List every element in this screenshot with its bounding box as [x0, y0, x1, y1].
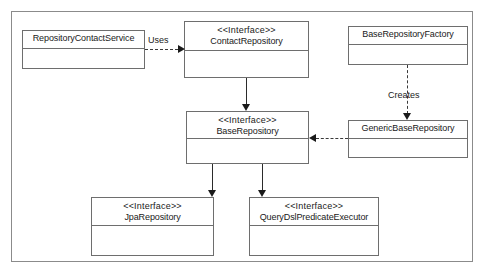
contact-extends-base-edge-arrowhead — [242, 104, 250, 111]
uses-edge-line — [145, 49, 178, 50]
class-header-contact-repository: <<Interface>> ContactRepository — [185, 22, 308, 51]
class-body-contact-repository — [185, 51, 308, 78]
class-stereotype-jpa-repository: <<Interface>> — [92, 201, 213, 212]
class-box-generic-base-repository[interactable]: GenericBaseRepository — [348, 120, 468, 158]
class-header-base-repository-factory: BaseRepositoryFactory — [349, 27, 467, 45]
class-box-base-repository[interactable]: <<Interface>> BaseRepository — [186, 111, 309, 164]
uses-edge-label: Uses — [148, 35, 169, 46]
class-body-jpa-repository — [92, 226, 213, 256]
realizes-edge-line — [316, 138, 348, 139]
uses-edge-arrowhead — [178, 45, 185, 53]
class-header-jpa-repository: <<Interface>> JpaRepository — [92, 198, 213, 226]
class-box-querydsl-predicate-executor[interactable]: <<Interface>> QueryDslPredicateExecutor — [249, 197, 379, 256]
contact-extends-base-edge-line — [246, 78, 247, 105]
realizes-edge-arrowhead — [309, 134, 316, 142]
uml-class-diagram-canvas: RepositoryContactService <<Interface>> C… — [0, 0, 487, 277]
class-header-repository-contact-service: RepositoryContactService — [23, 31, 144, 49]
class-box-base-repository-factory[interactable]: BaseRepositoryFactory — [348, 26, 468, 65]
class-name-generic-base-repository: GenericBaseRepository — [349, 123, 467, 134]
creates-edge-label: Creates — [388, 90, 420, 101]
class-name-jpa-repository: JpaRepository — [92, 212, 213, 223]
class-header-base-repository: <<Interface>> BaseRepository — [187, 112, 308, 139]
base-extends-jpa-edge-line — [212, 164, 213, 191]
class-name-repository-contact-service: RepositoryContactService — [23, 33, 144, 44]
class-stereotype-querydsl-predicate-executor: <<Interface>> — [250, 201, 378, 212]
class-stereotype-base-repository: <<Interface>> — [187, 115, 308, 126]
class-body-base-repository-factory — [349, 45, 467, 65]
class-stereotype-contact-repository: <<Interface>> — [185, 25, 308, 36]
class-header-generic-base-repository: GenericBaseRepository — [349, 121, 467, 139]
class-body-querydsl-predicate-executor — [250, 226, 378, 256]
creates-edge-arrowhead — [403, 113, 411, 120]
class-body-base-repository — [187, 139, 308, 164]
class-name-contact-repository: ContactRepository — [185, 36, 308, 47]
diagram-frame: RepositoryContactService <<Interface>> C… — [11, 11, 473, 262]
base-extends-querydsl-edge-arrowhead — [258, 190, 266, 197]
class-name-base-repository: BaseRepository — [187, 126, 308, 137]
class-name-querydsl-predicate-executor: QueryDslPredicateExecutor — [250, 212, 378, 223]
base-extends-jpa-edge-arrowhead — [208, 190, 216, 197]
class-box-contact-repository[interactable]: <<Interface>> ContactRepository — [184, 21, 309, 78]
base-extends-querydsl-edge-line — [262, 164, 263, 191]
class-body-repository-contact-service — [23, 49, 144, 69]
class-name-base-repository-factory: BaseRepositoryFactory — [349, 29, 467, 40]
class-body-generic-base-repository — [349, 139, 467, 158]
class-box-repository-contact-service[interactable]: RepositoryContactService — [22, 30, 145, 69]
class-box-jpa-repository[interactable]: <<Interface>> JpaRepository — [91, 197, 214, 256]
class-header-querydsl-predicate-executor: <<Interface>> QueryDslPredicateExecutor — [250, 198, 378, 226]
